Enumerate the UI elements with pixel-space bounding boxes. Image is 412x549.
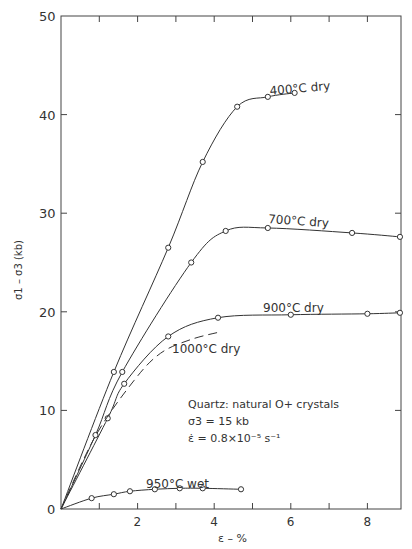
data-point (189, 260, 194, 265)
label-950c: 950°C wet (146, 477, 209, 491)
curve-700-c-dry (61, 227, 400, 509)
curves (61, 90, 403, 509)
data-point (238, 487, 243, 492)
label-400c: 400°C dry (269, 79, 331, 98)
annotation-line3: ε̇ = 0.8×10⁻⁵ s⁻¹ (188, 432, 281, 445)
axes: 246801020304050 (39, 9, 401, 529)
y-tick-label: 20 (39, 305, 56, 320)
x-tick-label: 8 (363, 515, 371, 529)
data-point (349, 230, 354, 235)
data-point (127, 489, 132, 494)
label-1000c: 1000°C dry (172, 342, 240, 356)
data-point (166, 334, 171, 339)
data-point (215, 315, 220, 320)
data-point (397, 234, 402, 239)
annotation-line2: σ3 = 15 kb (188, 415, 249, 428)
chart-canvas: 246801020304050 400°C dry 700°C dry 900°… (0, 0, 412, 549)
data-point (200, 159, 205, 164)
data-point (111, 492, 116, 497)
curve-400-c-dry (61, 93, 295, 509)
label-900c: 900°C dry (263, 301, 324, 315)
annotation-line1: Quartz: natural O+ crystals (188, 398, 339, 411)
y-tick-label: 50 (39, 9, 56, 24)
data-point (120, 369, 125, 374)
y-tick-label: 10 (39, 403, 56, 418)
data-point (397, 310, 402, 315)
data-point (365, 311, 370, 316)
stress-strain-chart: 246801020304050 400°C dry 700°C dry 900°… (0, 0, 412, 549)
y-tick-label: 30 (39, 206, 56, 221)
y-axis-label: σ1 – σ3 (kb) (13, 240, 24, 300)
x-tick-label: 4 (210, 515, 218, 529)
data-point (111, 369, 116, 374)
x-tick-label: 6 (287, 515, 295, 529)
data-point (166, 245, 171, 250)
x-tick-label: 2 (134, 515, 142, 529)
data-point (265, 225, 270, 230)
x-axis-label: ε – % (218, 532, 247, 545)
y-tick-label: 0 (47, 502, 55, 517)
data-point (223, 228, 228, 233)
label-700c: 700°C dry (268, 212, 330, 230)
data-point (89, 496, 94, 501)
data-point (235, 104, 240, 109)
data-point (122, 381, 127, 386)
y-tick-label: 40 (39, 108, 56, 123)
